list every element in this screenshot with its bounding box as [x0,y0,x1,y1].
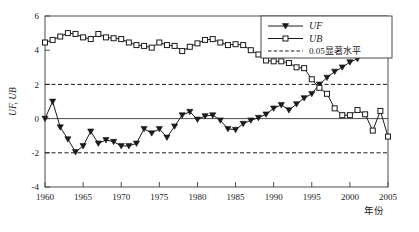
x-axis-tick-label: 1995 [303,192,322,202]
y-axis-tick-label: 4 [35,45,40,55]
data-point-ub [111,36,116,41]
data-point-uf [111,139,117,144]
data-point-ub [355,108,360,113]
data-point-ub [103,35,108,40]
data-point-ub [340,113,345,118]
data-point-ub [241,43,246,48]
data-point-uf [179,113,185,118]
data-point-ub [378,108,383,113]
data-point-ub [210,37,215,42]
x-axis-title: 年份 [364,205,384,216]
data-point-ub [157,40,162,45]
data-point-uf [141,126,147,131]
y-axis-tick-label: -4 [32,182,40,192]
data-point-ub [142,43,147,48]
x-axis-tick-label: 1975 [150,192,169,202]
data-point-ub [309,77,314,82]
data-point-ub [88,37,93,42]
data-point-ub [81,35,86,40]
data-point-ub [294,65,299,70]
data-point-ub [386,134,391,139]
data-point-uf [286,108,292,113]
x-axis-tick-label: 1970 [112,192,131,202]
data-point-ub [96,31,101,36]
y-axis-tick-label: 2 [35,80,40,90]
chart-figure: -4-2024619601965197019751980198519901995… [0,0,419,232]
data-point-ub [65,31,70,36]
data-point-ub [332,106,337,111]
data-point-ub [233,42,238,47]
data-point-ub [172,43,177,48]
data-point-ub [58,34,63,39]
y-axis-tick-label: 6 [35,11,40,21]
data-point-ub [302,66,307,71]
data-point-ub [203,37,208,42]
data-point-uf [88,129,94,134]
y-axis-tick-label: -2 [32,148,40,158]
y-axis-tick-label: 0 [35,114,40,124]
data-point-ub [119,37,124,42]
x-axis-tick-label: 1990 [265,192,284,202]
data-point-ub [187,44,192,49]
data-point-ub [180,49,185,54]
data-point-ub [43,40,48,45]
data-point-ub [195,41,200,46]
data-point-uf [149,131,155,136]
data-point-ub [248,48,253,53]
x-axis-tick-label: 2000 [341,192,360,202]
data-point-ub [271,59,276,64]
data-point-uf [65,137,71,142]
data-point-ub [347,113,352,118]
data-point-uf [50,99,56,104]
data-point-ub [134,43,139,48]
data-point-ub [264,58,269,63]
y-axis-title: UF, UB [8,87,18,116]
data-point-ub [126,40,131,45]
data-point-ub [50,37,55,42]
data-point-uf [309,91,315,96]
data-point-uf [171,124,177,129]
x-axis-tick-label: 1960 [36,192,55,202]
data-point-ub [279,59,284,64]
data-point-ub [149,45,154,50]
data-point-ub [363,112,368,117]
x-axis-tick-label: 2005 [379,192,398,202]
data-point-ub [325,91,330,96]
data-point-uf [164,135,170,140]
data-point-uf [248,118,254,123]
legend-label-ub: UB [309,33,322,44]
data-point-uf [347,60,353,65]
data-point-uf [232,127,238,132]
data-point-ub [225,43,230,48]
data-point-ub [286,61,291,66]
data-point-ub [370,128,375,133]
data-point-uf [194,117,200,122]
data-point-ub [73,31,78,36]
legend-label-uf: UF [309,20,323,31]
data-point-uf [263,112,269,117]
legend-label-significance: 0.05显著水平 [309,45,361,56]
data-point-uf [95,141,101,146]
data-point-ub [164,43,169,48]
chart-plot-area: -4-2024619601965197019751980198519901995… [0,0,419,232]
x-axis-tick-label: 1965 [74,192,93,202]
data-point-uf [72,150,78,155]
data-point-uf [57,125,63,130]
legend-marker-ub [283,36,288,41]
x-axis-tick-label: 1980 [188,192,207,202]
data-point-uf [278,103,284,108]
data-point-uf [339,65,345,70]
data-point-ub [256,52,261,57]
data-point-ub [218,40,223,45]
x-axis-tick-label: 1985 [227,192,246,202]
data-point-ub [317,85,322,90]
series-line-uf [45,45,388,152]
